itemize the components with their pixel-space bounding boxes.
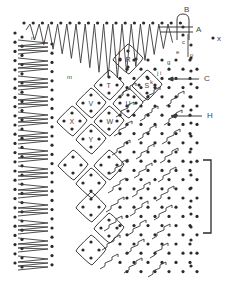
svg-text:B: B <box>184 5 189 14</box>
svg-text:V: V <box>89 100 94 107</box>
bracket <box>203 160 211 233</box>
thread-lines <box>18 24 173 270</box>
arrow-h <box>171 114 202 118</box>
svg-text:X: X <box>70 118 75 125</box>
lace-pricking-diagram: RSTUVWXYABCHxceogfijkmn <box>0 0 230 285</box>
pin-holes <box>13 21 214 273</box>
labels: RSTUVWXYABCHxceogfijkmn <box>31 5 221 143</box>
svg-text:C: C <box>204 74 210 83</box>
svg-text:m: m <box>67 74 72 80</box>
svg-text:j: j <box>156 70 158 76</box>
svg-text:e: e <box>176 49 180 55</box>
svg-text:o: o <box>190 52 194 58</box>
svg-text:x: x <box>217 34 221 43</box>
svg-text:H: H <box>207 111 213 120</box>
svg-text:W: W <box>107 118 114 125</box>
line-a <box>158 27 193 32</box>
svg-text:g: g <box>167 59 170 65</box>
svg-text:U: U <box>126 100 131 107</box>
svg-text:Y: Y <box>89 136 94 143</box>
svg-text:n: n <box>31 35 34 41</box>
svg-text:k: k <box>150 79 154 85</box>
svg-text:i: i <box>160 70 161 76</box>
svg-text:S: S <box>145 82 150 89</box>
arrow-c <box>168 77 199 81</box>
svg-text:R: R <box>126 56 131 63</box>
svg-text:c: c <box>182 39 185 45</box>
svg-text:T: T <box>107 82 112 89</box>
svg-text:A: A <box>196 25 202 34</box>
